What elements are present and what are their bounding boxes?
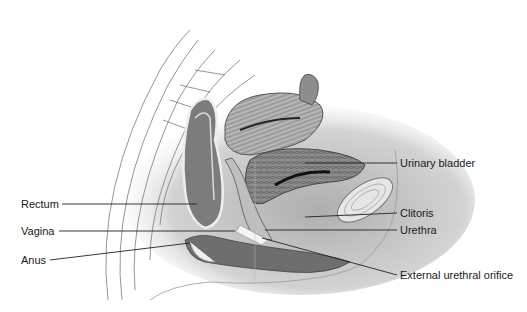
rectum-organ	[183, 99, 222, 228]
label-clitoris: Clitoris	[400, 207, 434, 219]
pelvis-illustration	[0, 0, 527, 312]
label-vagina: Vagina	[21, 225, 54, 237]
anatomy-diagram: Rectum Vagina Anus Urinary bladder Clito…	[0, 0, 527, 312]
label-external-urethral-orifice: External urethral orifice	[400, 269, 513, 281]
label-urethra: Urethra	[400, 224, 437, 236]
label-rectum: Rectum	[21, 198, 59, 210]
label-urinary-bladder: Urinary bladder	[400, 157, 475, 169]
fallopian-tube	[300, 74, 319, 105]
label-anus: Anus	[21, 254, 46, 266]
